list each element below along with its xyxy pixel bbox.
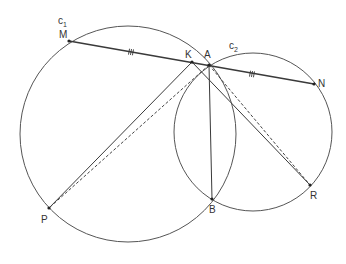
equal-tick-mark	[130, 49, 131, 55]
equal-tick-mark	[250, 71, 251, 77]
point-M	[67, 39, 70, 42]
circle-label-c2: c2	[229, 40, 238, 53]
circle-c2	[174, 53, 332, 211]
segment-AP	[49, 65, 209, 208]
point-label-A: A	[204, 49, 211, 60]
point-B	[210, 197, 213, 200]
point-label-B: B	[209, 204, 216, 215]
point-label-P: P	[41, 214, 48, 225]
geometry-diagram: c1c2MKANPBR	[0, 0, 346, 264]
point-A	[207, 63, 210, 66]
equal-tick-mark	[132, 49, 133, 55]
point-K	[190, 60, 193, 63]
equal-tick-mark	[129, 49, 130, 55]
point-R	[308, 183, 311, 186]
point-label-K: K	[185, 49, 192, 60]
point-N	[312, 82, 315, 85]
circle-label-subscript: 2	[234, 46, 238, 53]
segment-AB	[209, 65, 212, 199]
segment-AR	[209, 65, 310, 185]
point-P	[47, 206, 50, 209]
equal-tick-mark	[253, 71, 254, 77]
point-label-N: N	[318, 78, 325, 89]
point-label-R: R	[310, 190, 317, 201]
circle-label-subscript: 1	[63, 21, 67, 28]
circle-label-c1: c1	[58, 15, 67, 28]
point-label-M: M	[59, 29, 67, 40]
segment-KP	[49, 62, 192, 208]
diagram-svg: c1c2MKANPBR	[0, 0, 346, 264]
equal-tick-mark	[251, 71, 252, 77]
